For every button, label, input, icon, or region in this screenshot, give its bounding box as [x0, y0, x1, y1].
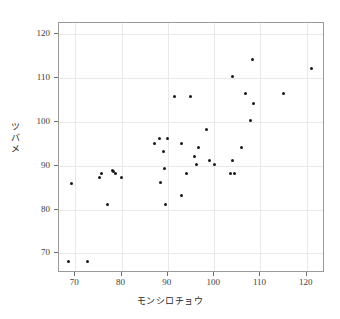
data-point — [158, 137, 161, 140]
data-point — [67, 260, 70, 263]
data-point — [163, 167, 166, 170]
y-axis-title-char: メ — [8, 144, 22, 155]
data-point — [100, 172, 103, 175]
data-point — [153, 142, 156, 145]
data-point — [86, 260, 89, 263]
gridline-vertical — [75, 23, 76, 271]
data-point — [195, 163, 198, 166]
gridline-vertical — [260, 23, 261, 271]
gridline-horizontal — [59, 34, 323, 35]
x-tick-label: 70 — [70, 277, 79, 287]
y-tick-mark — [54, 252, 58, 253]
gridline-vertical — [122, 23, 123, 271]
data-point — [166, 137, 169, 140]
data-point — [233, 172, 236, 175]
data-point — [164, 203, 167, 206]
gridline-horizontal — [59, 122, 323, 123]
data-point — [310, 67, 313, 70]
data-point — [173, 95, 176, 98]
gridline-vertical — [214, 23, 215, 271]
data-point — [231, 159, 234, 162]
data-point — [240, 146, 243, 149]
data-point — [98, 176, 101, 179]
y-tick-label: 110 — [28, 72, 50, 82]
x-axis-title: モンシロチョウ — [0, 294, 340, 307]
gridline-vertical — [168, 23, 169, 271]
x-tick-mark — [121, 272, 122, 276]
data-point — [213, 163, 216, 166]
data-point — [159, 181, 162, 184]
data-point — [251, 58, 254, 61]
x-tick-label: 80 — [116, 277, 125, 287]
data-point — [162, 150, 165, 153]
y-tick-mark — [54, 77, 58, 78]
data-point — [205, 128, 208, 131]
data-point — [114, 172, 117, 175]
y-tick-label: 80 — [28, 204, 50, 214]
data-point — [208, 159, 211, 162]
gridline-horizontal — [59, 253, 323, 254]
x-tick-label: 90 — [162, 277, 171, 287]
gridline-horizontal — [59, 78, 323, 79]
x-tick-mark — [167, 272, 168, 276]
x-tick-label: 120 — [299, 277, 313, 287]
x-tick-mark — [306, 272, 307, 276]
x-tick-mark — [213, 272, 214, 276]
y-tick-mark — [54, 165, 58, 166]
gridline-vertical — [307, 23, 308, 271]
data-point — [106, 203, 109, 206]
data-point — [180, 142, 183, 145]
data-point — [180, 194, 183, 197]
x-tick-mark — [259, 272, 260, 276]
gridline-horizontal — [59, 210, 323, 211]
data-point — [120, 176, 123, 179]
data-point — [282, 92, 285, 95]
y-axis-title-char: バ — [8, 133, 22, 144]
x-tick-mark — [74, 272, 75, 276]
gridline-horizontal — [59, 166, 323, 167]
data-point — [244, 92, 247, 95]
y-tick-label: 100 — [28, 116, 50, 126]
data-point — [252, 102, 255, 105]
y-tick-mark — [54, 33, 58, 34]
data-point — [189, 95, 192, 98]
plot-area — [58, 22, 324, 272]
scatter-plot-figure: 708090100110120 708090100110120 モンシロチョウ … — [0, 0, 340, 319]
data-point — [229, 172, 232, 175]
data-point — [193, 155, 196, 158]
y-tick-label: 120 — [28, 28, 50, 38]
x-tick-label: 100 — [206, 277, 220, 287]
y-tick-mark — [54, 209, 58, 210]
data-point — [70, 182, 73, 185]
data-point — [197, 146, 200, 149]
y-axis-title: ツバメ — [8, 122, 22, 155]
y-tick-label: 90 — [28, 160, 50, 170]
y-axis-title-char: ツ — [8, 122, 22, 133]
y-tick-mark — [54, 121, 58, 122]
y-tick-label: 70 — [28, 247, 50, 257]
data-point — [185, 172, 188, 175]
x-tick-label: 110 — [253, 277, 266, 287]
